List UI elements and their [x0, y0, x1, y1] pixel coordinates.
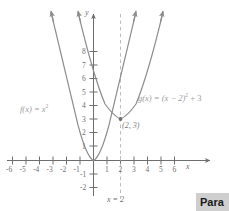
- vertex-point-label: (2, 3): [122, 122, 139, 130]
- y-axis-label: y: [85, 9, 89, 17]
- curve-g-label: g(x) = (x − 2)2 + 3: [138, 93, 201, 102]
- x-tick-label-1: 1: [105, 166, 109, 174]
- x-tick-label--4: -4: [33, 166, 39, 174]
- y-tick-label-4: 4: [82, 102, 86, 110]
- y-tick-label-2: 2: [82, 129, 86, 137]
- x-tick-label--1: -1: [74, 166, 80, 174]
- y-tick-label-6: 6: [82, 75, 86, 83]
- x-tick-label-5: 5: [159, 166, 163, 174]
- curve-g-label-text-2: + 3: [188, 93, 201, 103]
- y-tick-label--1: -1: [80, 171, 86, 179]
- x-tick-label-2: 2: [119, 166, 123, 174]
- y-tick-label-1: 1: [82, 143, 86, 151]
- x-tick-label--3: -3: [47, 166, 53, 174]
- x-axis-label: x: [186, 163, 190, 171]
- footer-badge: Para: [196, 193, 229, 211]
- x-tick-label-4: 4: [146, 166, 150, 174]
- x-tick-label-6: 6: [173, 166, 177, 174]
- y-tick-label-3: 3: [82, 116, 86, 124]
- footer-badge-label: Para: [196, 196, 224, 208]
- curve-f-label: f(x) = x2: [20, 104, 48, 113]
- vertical-line-label: x = 2: [107, 196, 124, 204]
- y-tick-label-7: 7: [82, 62, 86, 70]
- curve-f-label-exponent: 2: [46, 103, 49, 109]
- x-tick-label--6: -6: [6, 166, 12, 174]
- y-tick-label-8: 8: [82, 48, 86, 56]
- x-tick-label--2: -2: [60, 166, 66, 174]
- y-tick-label--2: -2: [80, 184, 86, 192]
- curve-f-label-text: f(x) = x: [20, 104, 46, 114]
- x-tick-label-3: 3: [132, 166, 136, 174]
- x-tick-label--5: -5: [20, 166, 26, 174]
- curve-g-label-text: g(x) = (x − 2): [138, 93, 185, 103]
- y-tick-label-5: 5: [82, 89, 86, 97]
